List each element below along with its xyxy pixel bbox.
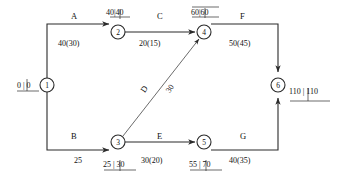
activity-label-c: C: [157, 12, 163, 21]
edge-activity-a: [47, 24, 109, 78]
activity-label-a: A: [71, 12, 77, 21]
activity-duration-c: 20(15): [139, 40, 160, 48]
event-time-node-4: 60|60: [191, 9, 209, 17]
activity-duration-e: 30(20): [141, 157, 162, 165]
node-label-2: 2: [114, 29, 122, 37]
edge-activity-f: [211, 24, 278, 72]
event-time-node-1: 0 | 0: [17, 82, 31, 90]
edge-activity-b: [47, 92, 109, 150]
activity-duration-g: 40(35): [229, 157, 250, 165]
activity-label-f: F: [240, 12, 245, 21]
node-label-5: 5: [200, 139, 208, 147]
activity-duration-a: 40(30): [58, 40, 79, 48]
activity-label-b: B: [71, 132, 77, 141]
event-time-node-2: 40|40: [106, 9, 124, 17]
activity-duration-b: 25: [74, 157, 82, 165]
activity-duration-f: 50(45): [229, 40, 250, 48]
node-label-4: 4: [200, 29, 208, 37]
node-label-3: 3: [114, 139, 122, 147]
edge-activity-d: [123, 39, 199, 136]
edge-activity-g: [211, 98, 278, 150]
node-label-6: 6: [274, 82, 282, 90]
event-time-node-3: 25 | 30: [103, 161, 125, 169]
event-time-node-5: 55 | 70: [189, 161, 211, 169]
activity-label-g: G: [240, 132, 246, 141]
event-time-node-6: 110 | 110: [289, 88, 318, 96]
network-diagram: 1 2 3 4 5 6 0 | 0 40|40 60|60 25 | 30 55…: [0, 0, 338, 181]
node-label-1: 1: [43, 82, 51, 90]
activity-label-e: E: [157, 132, 162, 141]
